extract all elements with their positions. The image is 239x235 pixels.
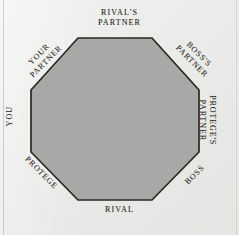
label-rival: RIVAL bbox=[0, 205, 239, 215]
label-you: YOU bbox=[5, 86, 15, 146]
figure-page: · · · RIVAL'S PARTNER YOUR PARTNER BOSS'… bbox=[0, 0, 239, 235]
octagon-polygon bbox=[31, 38, 199, 200]
label-rivals-partner: RIVAL'S PARTNER bbox=[0, 8, 239, 28]
